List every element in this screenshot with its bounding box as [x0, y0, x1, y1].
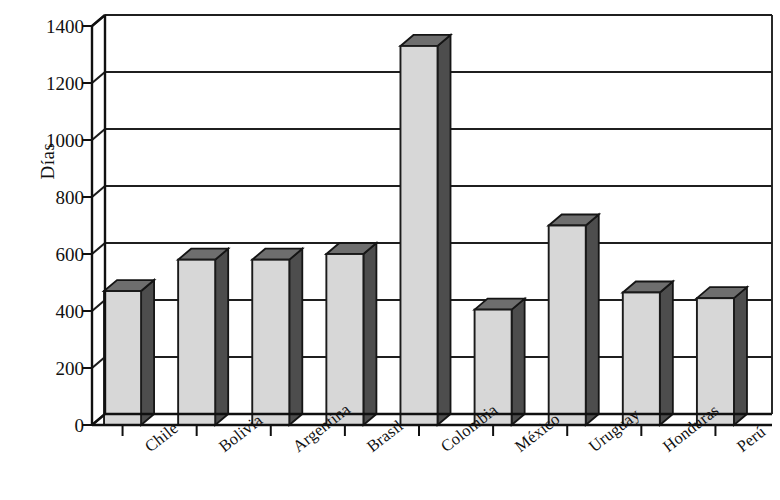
- x-tick-label-honduras: Honduras: [659, 401, 723, 457]
- x-tick-label-mxico: México: [511, 409, 564, 457]
- x-tick-label-argentina: Argentina: [289, 399, 354, 456]
- x-axis-tick-labels: ChileBoliviaArgentinaBrasilColombiaMéxic…: [0, 0, 780, 500]
- x-tick-label-chile: Chile: [141, 418, 182, 456]
- x-tick-label-per: Perú: [733, 422, 770, 457]
- x-tick-label-brasil: Brasil: [363, 416, 407, 457]
- bar-chart: Días 0200400600800100012001400 ChileBoli…: [0, 0, 780, 500]
- x-tick-label-bolivia: Bolivia: [215, 410, 267, 457]
- x-tick-label-colombia: Colombia: [437, 400, 502, 457]
- x-tick-label-uruguay: Uruguay: [585, 405, 644, 457]
